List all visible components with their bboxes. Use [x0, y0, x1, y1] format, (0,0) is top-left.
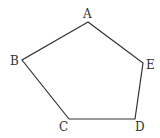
pentagon-outline: [22, 22, 143, 119]
vertex-label-e: E: [146, 58, 155, 72]
vertex-label-d: D: [135, 120, 145, 134]
vertex-label-c: C: [59, 120, 68, 134]
pentagon-figure: A B C D E: [0, 0, 160, 138]
pentagon-diagram: A B C D E: [0, 0, 160, 138]
vertex-label-b: B: [10, 54, 19, 68]
vertex-label-a: A: [82, 7, 92, 21]
